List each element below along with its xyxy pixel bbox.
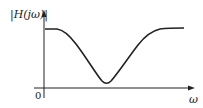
x-axis-label: ω [189,93,198,106]
y-axis-label: |H(jω)| [10,8,48,22]
x-axis-arrow-icon [188,86,195,91]
origin-label: 0 [35,90,41,101]
magnitude-response-diagram: |H(jω)| 0 ω [0,0,203,108]
magnitude-curve [45,28,184,83]
